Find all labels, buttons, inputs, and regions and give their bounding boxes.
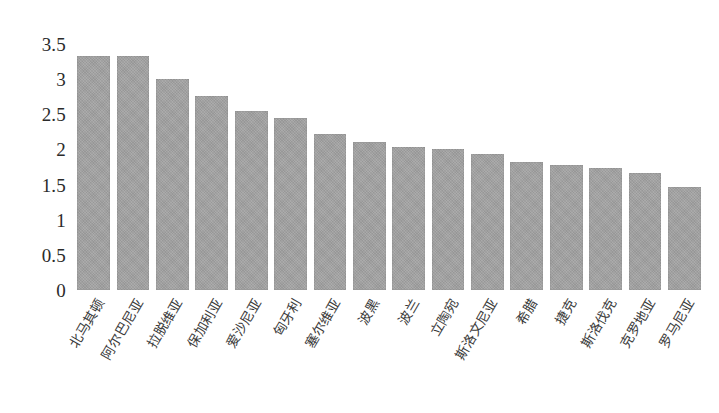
- y-axis: 00.511.522.533.5: [0, 0, 74, 413]
- y-tick-label: 2.5: [42, 105, 66, 124]
- bar: [156, 79, 189, 290]
- x-tick-label: 匈牙利: [270, 296, 303, 338]
- bar: [589, 168, 622, 290]
- bar: [235, 111, 268, 290]
- x-tick: 匈牙利: [271, 292, 310, 413]
- y-tick-label: 1.5: [42, 175, 66, 194]
- y-tick-label: 3: [56, 70, 66, 89]
- x-tick: 保加利亚: [192, 292, 231, 413]
- x-tick-label: 波黑: [356, 296, 382, 327]
- x-tick: 拉脱维亚: [153, 292, 192, 413]
- bar: [392, 147, 425, 290]
- x-tick: 塞尔维亚: [310, 292, 349, 413]
- bar: [550, 165, 583, 290]
- bar: [77, 56, 110, 290]
- x-tick: 克罗地亚: [625, 292, 664, 413]
- y-tick-label: 2: [56, 140, 66, 159]
- x-tick: 波兰: [389, 292, 428, 413]
- x-tick-label: 立陶宛: [428, 296, 461, 338]
- bar: [510, 162, 543, 290]
- bar: [629, 173, 662, 290]
- bar: [195, 96, 228, 290]
- x-tick: 阿尔巴尼亚: [113, 292, 152, 413]
- x-tick-label: 波兰: [395, 296, 421, 327]
- x-axis: 北马其顿阿尔巴尼亚拉脱维亚保加利亚爱沙尼亚匈牙利塞尔维亚波黑波兰立陶宛斯洛文尼亚…: [74, 292, 704, 413]
- bar: [432, 149, 465, 290]
- x-tick: 罗马尼亚: [665, 292, 704, 413]
- bar: [668, 187, 701, 290]
- x-tick: 波黑: [350, 292, 389, 413]
- bar-chart: 00.511.522.533.5 北马其顿阿尔巴尼亚拉脱维亚保加利亚爱沙尼亚匈牙…: [0, 0, 719, 413]
- bar: [353, 142, 386, 290]
- y-tick-label: 0: [56, 281, 66, 300]
- bar: [471, 154, 504, 290]
- x-tick: 斯洛伐克: [586, 292, 625, 413]
- x-tick: 爱沙尼亚: [232, 292, 271, 413]
- x-tick: 希腊: [507, 292, 546, 413]
- bar: [274, 118, 307, 290]
- bars-layer: [74, 44, 704, 290]
- x-tick-label: 捷克: [553, 296, 579, 327]
- bar: [314, 134, 347, 290]
- x-tick-label: 希腊: [513, 296, 539, 327]
- y-tick-label: 3.5: [42, 35, 66, 54]
- bar: [117, 56, 150, 290]
- plot-area: [74, 44, 704, 290]
- y-tick-label: 1: [56, 210, 66, 229]
- x-tick: 斯洛文尼亚: [468, 292, 507, 413]
- x-tick: 捷克: [547, 292, 586, 413]
- y-tick-label: 0.5: [42, 245, 66, 264]
